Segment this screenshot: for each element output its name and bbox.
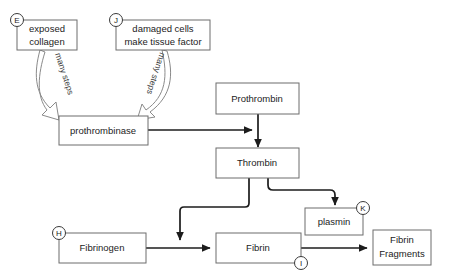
tag-letter-e: E xyxy=(14,16,19,25)
tag-letter-j: J xyxy=(114,16,118,25)
tag-letter-i: I xyxy=(300,259,302,268)
label-fibrinogen: Fibrinogen xyxy=(80,242,125,253)
label-damaged-cells-line2: make tissue factor xyxy=(124,36,201,47)
edge-thrombin-to-plasmin xyxy=(268,178,335,205)
label-many-steps-left: many steps xyxy=(53,52,76,96)
label-fibrin-fragments-line1: Fibrin xyxy=(390,234,414,245)
label-damaged-cells-line1: damaged cells xyxy=(132,23,194,34)
label-exposed-collagen-line2: collagen xyxy=(29,36,64,47)
label-fibrin-fragments-line2: Fragments xyxy=(379,248,425,259)
label-fibrin: Fibrin xyxy=(246,242,270,253)
label-thrombin: Thrombin xyxy=(237,157,277,168)
clotting-cascade-diagram: exposed collagen damaged cells make tiss… xyxy=(0,0,456,278)
label-plasmin: plasmin xyxy=(318,216,351,227)
tag-letter-k: K xyxy=(360,204,366,213)
label-prothrombinase: prothrombinase xyxy=(70,125,136,136)
label-prothrombin: Prothrombin xyxy=(231,93,283,104)
edge-thrombin-to-fibrin-conversion xyxy=(180,178,249,240)
tag-letter-h: H xyxy=(56,229,62,238)
diagram-canvas: exposed collagen damaged cells make tiss… xyxy=(0,0,456,278)
label-exposed-collagen-line1: exposed xyxy=(29,23,65,34)
